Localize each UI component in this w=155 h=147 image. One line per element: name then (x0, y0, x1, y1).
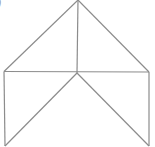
segment-apex-center (77, 0, 78, 73)
segment-center-bottom_right (77, 73, 149, 146)
segment-center-bottom_left (5, 73, 77, 146)
geometric-figure (0, 0, 155, 147)
figure-segments (4, 0, 149, 146)
segment-apex-right (78, 0, 149, 72)
segment-apex-left (4, 0, 78, 72)
segment-left-bottom_left (4, 72, 5, 147)
segment-left-right (4, 72, 149, 73)
